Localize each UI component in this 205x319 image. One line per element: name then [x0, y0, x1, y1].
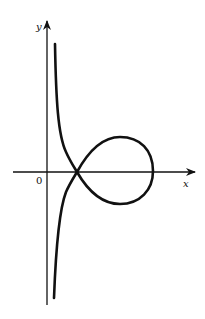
curve-lower-branch [54, 172, 77, 298]
y-axis-label: y [35, 21, 42, 32]
x-axis-label: x [183, 178, 189, 189]
strophoid-diagram: y x 0 [0, 0, 205, 319]
curve-loop [77, 137, 153, 204]
origin-label: 0 [36, 175, 42, 186]
curve-upper-branch [55, 44, 77, 172]
